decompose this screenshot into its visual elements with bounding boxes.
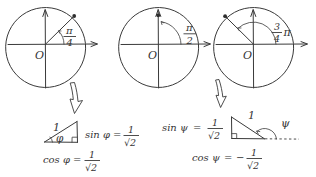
- origin-label-2: O: [148, 49, 157, 62]
- right-angle-mark: [72, 137, 77, 142]
- cos-phi-denominator: √2: [85, 162, 97, 173]
- cos-phi-equation: cos φ = 1 √2: [43, 149, 100, 173]
- phi-derivation: 1 φ sin φ = 1 √2 cos φ = 1 √2: [43, 121, 139, 173]
- sin-phi-equation: sin φ = 1 √2: [85, 124, 139, 148]
- point-marker: [72, 14, 76, 18]
- angle-numerator-1: π: [65, 25, 73, 36]
- point-marker: [156, 13, 160, 17]
- cos-psi-numerator: 1: [251, 147, 257, 158]
- sin-psi-equation: sin ψ = 1 √2: [162, 117, 223, 141]
- sin-phi-equals: =: [113, 129, 121, 140]
- cos-phi-numerator: 1: [89, 149, 95, 160]
- cos-psi-equals: =: [224, 152, 232, 163]
- triangle-hyp-label-psi: 1: [248, 109, 255, 122]
- origin-label-1: O: [35, 49, 44, 62]
- x-axis: [121, 44, 210, 45]
- angle-numerator-2: π: [185, 22, 193, 33]
- x-axis: [8, 44, 97, 45]
- arrow-right-shape: [216, 80, 227, 108]
- cos-phi-equals: =: [73, 154, 81, 165]
- figure-canvas: O π 4 O π 2 O 3 4 π: [0, 0, 316, 177]
- cos-phi-lhs: cos φ: [43, 154, 70, 165]
- sin-psi-denominator: √2: [208, 130, 220, 141]
- x-axis: [216, 44, 307, 45]
- unit-circle-pi-over-2: O π 2: [119, 7, 211, 88]
- sin-psi-equals: =: [193, 122, 201, 133]
- triangle-angle-label-phi: φ: [56, 132, 64, 144]
- sin-psi-lhs: sin ψ: [162, 122, 188, 133]
- phi-triangle: 1 φ: [45, 121, 78, 144]
- angle-arc: [162, 22, 182, 44]
- angle-numerator-3: 3: [274, 21, 280, 32]
- cos-psi-denominator: √2: [247, 160, 259, 171]
- arrow-left: [70, 83, 83, 114]
- angle-suffix-3: π: [283, 26, 292, 39]
- sin-phi-denominator: √2: [124, 137, 136, 148]
- angle-arc-arrowhead: [237, 28, 241, 31]
- angle-denominator-3: 4: [273, 33, 280, 44]
- arrow-left-shape: [70, 83, 83, 114]
- origin-label-3: O: [243, 49, 252, 62]
- psi-angle-arc: [257, 129, 277, 139]
- unit-circle-pi-over-4: O π 4: [6, 7, 98, 88]
- right-angle-mark: [232, 134, 237, 139]
- arrow-right: [216, 80, 227, 108]
- cos-psi-sign: −: [236, 152, 244, 163]
- angle-denominator-1: 4: [66, 37, 73, 48]
- psi-triangle: 1 ψ: [232, 109, 300, 139]
- point-marker: [223, 14, 227, 18]
- cos-psi-lhs: cos ψ: [192, 152, 220, 163]
- sin-phi-lhs: sin φ: [85, 129, 110, 140]
- triangle-vertical: [77, 122, 78, 143]
- angle-denominator-2: 2: [186, 35, 193, 46]
- psi-derivation: sin ψ = 1 √2 1 ψ cos ψ = − 1: [162, 109, 299, 171]
- angle-arc: [238, 22, 276, 44]
- sin-psi-numerator: 1: [212, 117, 218, 128]
- sin-phi-numerator: 1: [128, 124, 134, 135]
- cos-psi-equation: cos ψ = − 1 √2: [192, 147, 262, 171]
- triangle-angle-label-psi: ψ: [281, 117, 290, 130]
- unit-circle-three-pi-over-4: O 3 4 π: [214, 7, 308, 88]
